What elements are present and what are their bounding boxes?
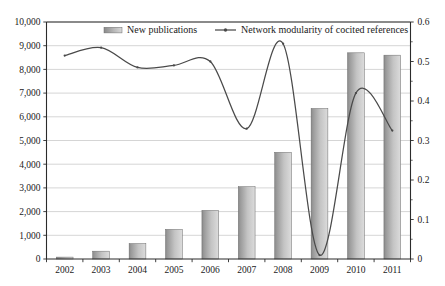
left-tick-label: 0 <box>36 254 41 264</box>
left-tick-label: 1,000 <box>19 231 41 241</box>
bar-line-combo-chart: 01,0002,0003,0004,0005,0006,0007,0008,00… <box>0 0 445 286</box>
left-tick-label: 9,000 <box>19 41 41 51</box>
line-point-2011 <box>391 129 393 131</box>
bar-2008 <box>275 152 292 259</box>
right-tick-label: 0.6 <box>418 17 430 27</box>
left-tick-label: 7,000 <box>19 88 41 98</box>
left-tick-label: 4,000 <box>19 160 41 170</box>
bar-2006 <box>202 210 219 259</box>
bar-2010 <box>348 53 365 259</box>
right-tick-label: 0 <box>418 254 423 264</box>
line-point-2010 <box>355 92 357 94</box>
legend-label-network-modularity: Network modularity of cocited references <box>241 24 408 35</box>
left-tick-label: 10,000 <box>14 17 40 27</box>
bar-2004 <box>129 244 146 259</box>
x-tick-label-2010: 2010 <box>346 265 365 275</box>
bar-2011 <box>384 55 401 259</box>
x-tick-label-2007: 2007 <box>237 265 256 275</box>
x-tick-label-2009: 2009 <box>310 265 329 275</box>
right-tick-label: 0.3 <box>418 136 430 146</box>
line-point-2009 <box>318 254 320 256</box>
bar-2005 <box>166 229 183 259</box>
left-tick-label: 2,000 <box>19 207 41 217</box>
line-point-2002 <box>64 54 66 56</box>
x-tick-label-2008: 2008 <box>274 265 293 275</box>
left-tick-label: 8,000 <box>19 65 41 75</box>
line-point-2008 <box>282 43 284 45</box>
chart-container: 01,0002,0003,0004,0005,0006,0007,0008,00… <box>0 0 445 286</box>
legend-label-new-publications: New publications <box>127 24 197 35</box>
x-tick-label-2011: 2011 <box>383 265 402 275</box>
right-tick-label: 0.4 <box>418 96 430 106</box>
x-tick-label-2003: 2003 <box>92 265 111 275</box>
left-tick-label: 5,000 <box>19 136 41 146</box>
x-tick-label-2004: 2004 <box>128 265 147 275</box>
bar-2003 <box>93 251 110 259</box>
line-point-2005 <box>173 64 175 66</box>
bar-2007 <box>238 187 255 259</box>
left-tick-label: 6,000 <box>19 112 41 122</box>
right-tick-label: 0.2 <box>418 175 430 185</box>
legend-bar-swatch <box>104 27 122 33</box>
line-point-2004 <box>136 66 138 68</box>
chart-legend: New publicationsNetwork modularity of co… <box>104 24 408 35</box>
left-tick-label: 3,000 <box>19 183 41 193</box>
legend-line-point <box>224 28 227 31</box>
chart-background <box>0 0 445 286</box>
right-tick-label: 0.5 <box>418 57 430 67</box>
right-tick-label: 0.1 <box>418 215 430 225</box>
x-tick-label-2006: 2006 <box>201 265 220 275</box>
x-tick-label-2005: 2005 <box>164 265 183 275</box>
x-tick-label-2002: 2002 <box>55 265 74 275</box>
line-point-2003 <box>100 47 102 49</box>
line-point-2006 <box>209 60 211 62</box>
line-point-2007 <box>246 127 248 129</box>
